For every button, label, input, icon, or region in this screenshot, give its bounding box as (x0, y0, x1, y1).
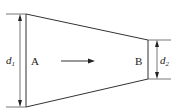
flow-arrow-icon (61, 59, 95, 64)
section-a-label: A (31, 55, 39, 67)
d1-label: d1 (6, 54, 15, 68)
d1-arrow-up-icon (18, 14, 22, 21)
d2-dimension: d2 (148, 40, 171, 79)
tapered-pipe-diagram: d1 d2 A B (0, 0, 175, 111)
d2-arrow-down-icon (155, 72, 159, 79)
d1-arrow-down-icon (18, 100, 22, 107)
bottom-wall (26, 79, 148, 107)
section-b-label: B (135, 55, 142, 67)
top-wall (26, 14, 148, 40)
d1-dimension: d1 (6, 14, 26, 107)
d2-arrow-up-icon (155, 40, 159, 47)
d2-label: d2 (160, 54, 170, 68)
